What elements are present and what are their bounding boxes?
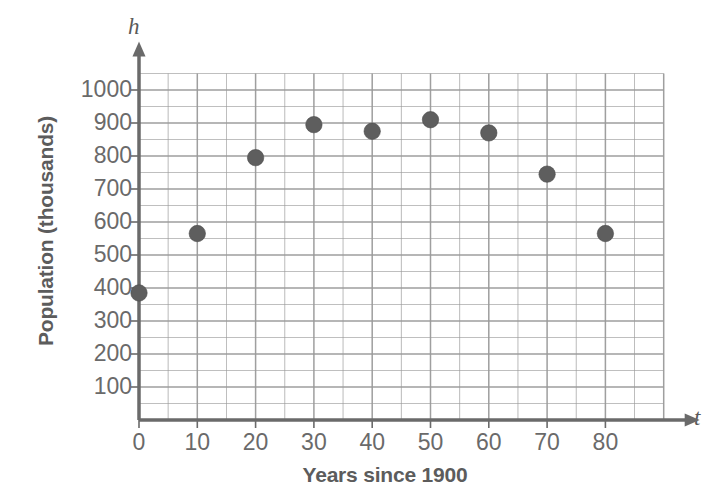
data-point (247, 149, 263, 165)
data-point (481, 125, 497, 141)
data-point (364, 123, 380, 139)
data-point (597, 225, 613, 241)
data-point (131, 285, 147, 301)
chart-canvas: Population (thousands) Years since 1900 … (0, 0, 728, 504)
y-axis-arrow (133, 42, 146, 57)
data-point (422, 112, 438, 128)
plot-svg (0, 0, 728, 504)
data-point (189, 225, 205, 241)
data-point (539, 166, 555, 182)
x-axis-arrow (685, 414, 700, 427)
data-point (306, 116, 322, 132)
